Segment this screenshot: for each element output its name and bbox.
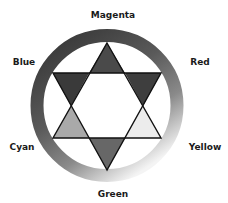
red-segment [125,73,161,106]
blue-segment [53,73,89,106]
magenta-segment [89,43,125,73]
yellow-segment [125,106,161,138]
label-blue: Blue [13,57,35,68]
cyan-segment [53,106,89,138]
label-cyan: Cyan [10,142,35,153]
green-segment [89,138,125,170]
label-red: Red [190,57,209,68]
label-magenta: Magenta [91,10,135,21]
label-yellow: Yellow [189,142,221,153]
label-green: Green [98,189,128,200]
color-wheel-diagram [0,0,228,203]
